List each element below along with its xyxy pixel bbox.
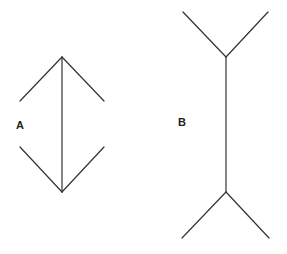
figure-a: A <box>16 57 104 192</box>
figure-b-label: B <box>178 116 186 128</box>
figure-a-fin-bottom-left <box>20 147 62 192</box>
figure-b-fin-bottom-left <box>182 192 226 238</box>
figure-b-fin-top-right <box>226 12 268 57</box>
figure-a-label: A <box>16 119 24 131</box>
figure-a-fin-bottom-right <box>62 147 104 192</box>
figure-b: B <box>178 12 269 238</box>
figure-b-fin-bottom-right <box>226 192 269 238</box>
figure-a-fin-top-right <box>62 57 104 101</box>
figure-b-fin-top-left <box>183 12 226 57</box>
figure-a-fin-top-left <box>20 57 62 101</box>
muller-lyer-diagram: A B <box>0 0 287 254</box>
